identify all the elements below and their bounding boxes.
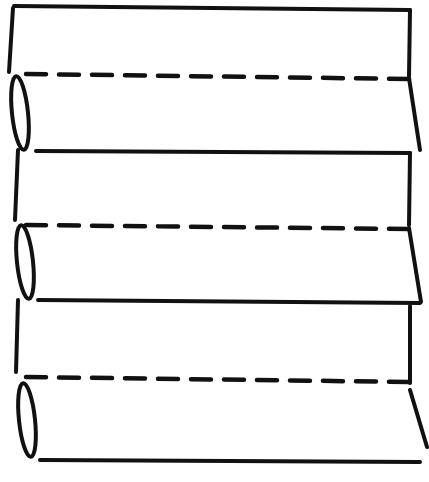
fold-1 xyxy=(8,74,420,153)
fold-2 xyxy=(13,224,421,303)
panel-2 xyxy=(15,150,410,225)
panel-top xyxy=(9,6,410,76)
pleated-sheet-illustration xyxy=(0,0,429,482)
fold-3 xyxy=(15,377,427,462)
panel-3 xyxy=(16,300,410,383)
pleated-sheet-drawing xyxy=(0,0,429,482)
